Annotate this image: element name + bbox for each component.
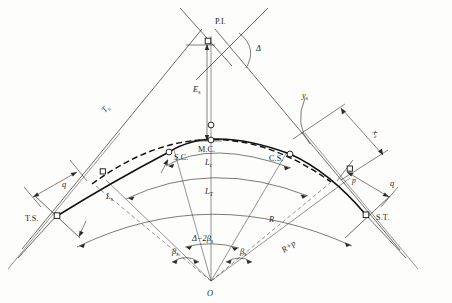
label-central-angle-sub: s bbox=[211, 238, 213, 244]
label-external-sub: s bbox=[198, 89, 200, 95]
xs-arrow-b bbox=[378, 149, 383, 155]
label-st: S.T. bbox=[376, 213, 389, 222]
lt-dimension-arc bbox=[126, 178, 308, 199]
node-pi bbox=[205, 38, 211, 44]
xs-dimension bbox=[293, 104, 388, 180]
label-cs: C.S. bbox=[269, 154, 284, 163]
q-right-tick-a bbox=[381, 187, 398, 207]
ls-leaders bbox=[79, 159, 168, 237]
external-dimension bbox=[186, 44, 222, 141]
label-ls-sub: s bbox=[111, 196, 113, 202]
label-radius: R bbox=[268, 215, 274, 224]
radial-to-sc bbox=[174, 150, 211, 281]
diagram-labels: P.I. Δ Es Ts ys xs M.C. S.C. C.S. Lc bbox=[25, 17, 394, 298]
radial-to-ts bbox=[106, 180, 211, 281]
spiral-curve-diagram: P.I. Δ Es Ts ys xs M.C. S.C. C.S. Lc bbox=[0, 0, 452, 303]
outer-arc-arrow-right bbox=[345, 242, 351, 247]
label-beta-right-sub: s bbox=[244, 251, 246, 257]
outer-dimension-arc bbox=[77, 214, 352, 247]
radial-dashed-right bbox=[211, 183, 330, 281]
ls-arrow-left bbox=[79, 231, 84, 237]
node-offset-left bbox=[100, 169, 105, 174]
label-o: O bbox=[207, 289, 213, 298]
node-sc bbox=[166, 149, 172, 155]
label-lc-sub: c bbox=[210, 162, 213, 168]
label-central-angle-main: Δ−2β bbox=[191, 234, 212, 243]
label-central-angle: Δ−2βs bbox=[191, 234, 213, 244]
label-beta-right: βs bbox=[239, 247, 246, 257]
delta-angle-arc bbox=[239, 33, 251, 68]
label-lc: Lc bbox=[204, 158, 213, 168]
outer-arc-arrow-left bbox=[79, 243, 85, 248]
node-ts bbox=[54, 213, 60, 219]
ls-arrow-right bbox=[163, 159, 168, 165]
left-offset-tangent bbox=[8, 133, 120, 269]
node-mc bbox=[208, 137, 214, 143]
node-offset-apex bbox=[208, 122, 214, 128]
label-ts: T.S. bbox=[25, 214, 38, 223]
right-offset-tangent bbox=[305, 133, 418, 269]
node-cs bbox=[287, 151, 293, 157]
label-ys: ys bbox=[301, 91, 308, 101]
q-left-arrow-b bbox=[71, 172, 77, 177]
spiral-in-arc bbox=[57, 152, 169, 216]
xs-tick-b bbox=[341, 150, 388, 180]
label-q-right: q bbox=[390, 179, 394, 188]
lt-arrow-left bbox=[128, 196, 134, 200]
tangent-lines bbox=[18, 8, 406, 258]
xs-arrow-a bbox=[341, 108, 346, 114]
label-external: Es bbox=[192, 85, 200, 95]
label-radius-offset: R+p bbox=[279, 239, 297, 256]
label-ls: Ls bbox=[105, 192, 113, 202]
label-pi: P.I. bbox=[215, 17, 226, 26]
q-left-tick-b bbox=[70, 160, 87, 181]
q-left-tick-a bbox=[24, 187, 41, 207]
node-offset-right bbox=[347, 166, 352, 171]
back-tangent-line bbox=[22, 29, 202, 249]
delta-angle bbox=[239, 33, 251, 68]
radial-to-st bbox=[211, 178, 350, 281]
label-lt-sub: T bbox=[210, 191, 214, 197]
label-sc: S.C. bbox=[174, 153, 189, 162]
label-beta-left-sub: s bbox=[176, 251, 178, 257]
forward-tangent-line bbox=[215, 29, 400, 250]
label-p: p bbox=[351, 176, 356, 185]
node-st bbox=[363, 212, 369, 218]
label-mc: M.C. bbox=[198, 145, 215, 154]
label-q-left: q bbox=[62, 180, 66, 189]
q-left-arrow-a bbox=[33, 193, 39, 198]
label-xs: xs bbox=[369, 127, 381, 139]
q-right-arrow-a bbox=[383, 193, 389, 198]
label-ys-sub: s bbox=[306, 95, 308, 101]
label-delta: Δ bbox=[255, 44, 261, 53]
label-lt: LT bbox=[204, 187, 214, 197]
label-tangent: Ts bbox=[100, 103, 112, 115]
